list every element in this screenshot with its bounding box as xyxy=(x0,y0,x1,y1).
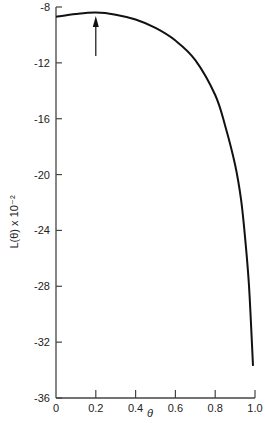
x-axis-title: θ xyxy=(147,407,153,419)
x-tick-label: 0.6 xyxy=(168,402,183,414)
series-line xyxy=(56,13,253,366)
x-tick-label: 1.0 xyxy=(247,402,262,414)
axes xyxy=(56,7,255,398)
y-tick-label: -36 xyxy=(34,392,50,404)
y-tick-label: -8 xyxy=(40,1,50,13)
y-tick-label: -20 xyxy=(34,169,50,181)
y-tick-label: -24 xyxy=(34,224,50,236)
y-tick-label: -12 xyxy=(34,57,50,69)
x-tick-label: 0.2 xyxy=(88,402,103,414)
line-chart: -8-12-16-20-24-28-32-3600.20.40.60.81.0 … xyxy=(0,0,265,423)
x-tick-label: 0.4 xyxy=(128,402,143,414)
y-axis-title: L(θ) x 10⁻² xyxy=(8,195,20,248)
y-tick-label: -16 xyxy=(34,113,50,125)
x-tick-label: 0 xyxy=(53,402,59,414)
curve-l-theta xyxy=(56,13,253,366)
maximum-arrow xyxy=(93,16,99,56)
y-tick-label: -28 xyxy=(34,280,50,292)
x-tick-label: 0.8 xyxy=(208,402,223,414)
ticks: -8-12-16-20-24-28-32-3600.20.40.60.81.0 xyxy=(34,1,263,414)
y-tick-label: -32 xyxy=(34,336,50,348)
arrow-head-icon xyxy=(93,16,99,27)
